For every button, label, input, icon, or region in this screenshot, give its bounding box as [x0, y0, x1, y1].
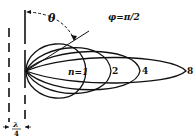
phi-label: φ=π/2: [108, 12, 140, 22]
spacing-numerator: λ: [12, 119, 19, 129]
lobe-label-n4: 4: [142, 66, 148, 76]
spacing-denominator: 4: [14, 129, 19, 137]
lobe-n8: [26, 57, 186, 83]
lobe-label-n2: 2: [112, 66, 118, 76]
lobe-label-n1: n=1: [68, 67, 88, 77]
dimension-arrow-right-icon: [25, 125, 29, 129]
lobe-label-n8: 8: [187, 66, 193, 76]
dimension-arrow-left-icon: [5, 125, 9, 129]
theta-arrow-start-icon: [26, 10, 31, 14]
theta-label: θ: [48, 12, 56, 25]
direction-line: [26, 31, 89, 71]
radiation-pattern-diagram: θ φ=π/2 n=1 2 4 8 λ 4: [0, 0, 196, 137]
